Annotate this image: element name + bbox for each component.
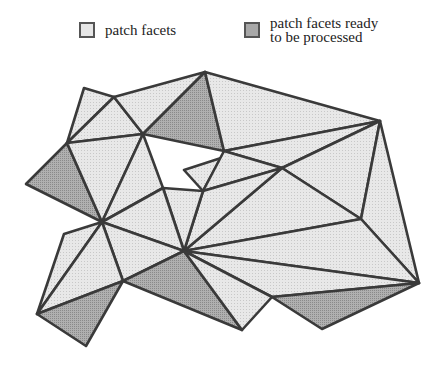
facet-mesh-diagram — [0, 0, 442, 368]
